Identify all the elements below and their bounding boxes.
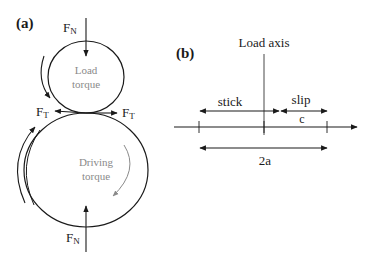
- stick-label: stick: [218, 94, 243, 109]
- left-tangential-force-label: FT: [36, 104, 49, 120]
- upper-rotation-arrow: [41, 56, 50, 98]
- load-torque-label-2: torque: [72, 78, 100, 90]
- driving-torque-label-2: torque: [82, 170, 110, 182]
- figure: (a) Load torque Driving torque FN FN FT …: [0, 0, 368, 257]
- lower-rotation-arrow-inner: [26, 130, 40, 205]
- driving-torque-label-1: Driving: [79, 156, 114, 168]
- load-torque-label-1: Load: [75, 64, 98, 76]
- bottom-normal-force-label: FN: [66, 230, 80, 246]
- top-normal-force-label: FN: [63, 20, 77, 36]
- slip-label: slip: [292, 92, 311, 107]
- contact-diagram: (a) Load torque Driving torque FN FN FT …: [0, 0, 368, 257]
- driving-torque-arrow: [113, 145, 130, 196]
- load-axis-label: Load axis: [239, 35, 290, 50]
- panel-b-label: (b): [176, 45, 194, 62]
- c-label: c: [299, 112, 304, 126]
- left-tangential-force-arrow: [55, 111, 86, 113]
- contact-width-label: 2a: [259, 153, 272, 168]
- right-tangential-force-label: FT: [122, 105, 135, 121]
- panel-a-label: (a): [16, 15, 34, 32]
